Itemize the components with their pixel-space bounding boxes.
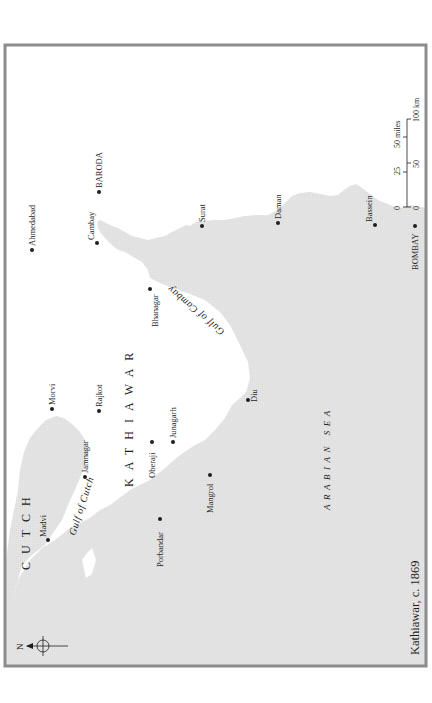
svg-text:Rajkot: Rajkot [94, 384, 104, 407]
place-junagarh: Junagarh [168, 407, 178, 444]
svg-text:Porbandar: Porbandar [155, 532, 165, 567]
label-arabian-sea: ARABIAN SEA [322, 406, 332, 511]
svg-text:Cambay: Cambay [86, 211, 96, 240]
svg-text:0: 0 [412, 206, 421, 210]
svg-text:Bhanagar: Bhanagar [150, 294, 160, 327]
map-figure: Ahmedabad BARODA Cambay Surat Daman Bass… [0, 0, 432, 703]
svg-text:Daman: Daman [273, 194, 283, 219]
svg-text:Mangrol: Mangrol [205, 483, 215, 513]
svg-text:Junagarh: Junagarh [168, 407, 178, 438]
svg-text:Bassein: Bassein [364, 195, 374, 222]
svg-text:50 miles: 50 miles [393, 121, 402, 148]
svg-text:Morvi: Morvi [47, 383, 57, 405]
svg-text:25: 25 [393, 167, 402, 175]
place-jamnagar: Jamnagar [80, 440, 90, 479]
place-baroda: BARODA [94, 151, 104, 194]
place-ahmedabad: Ahmedabad [27, 204, 37, 252]
svg-text:100 km: 100 km [412, 97, 421, 122]
svg-text:Jamnagar: Jamnagar [80, 440, 90, 473]
region-cutch: CUTCH [19, 489, 33, 570]
svg-text:BARODA: BARODA [94, 151, 104, 188]
svg-text:50: 50 [412, 160, 421, 168]
region-kathiawar: KATHIAWAR [122, 345, 136, 487]
svg-text:Diu: Diu [249, 389, 259, 403]
map-title: Kathiawar, c. 1869 [408, 560, 422, 655]
svg-text:Surat: Surat [197, 203, 207, 222]
svg-text:BOMBAY: BOMBAY [410, 233, 420, 270]
svg-text:N: N [15, 643, 25, 650]
svg-text:Madvi: Madvi [38, 514, 48, 537]
svg-text:0: 0 [393, 206, 402, 210]
svg-text:Oberaji: Oberaji [147, 452, 157, 478]
svg-text:Ahmedabad: Ahmedabad [27, 204, 37, 246]
